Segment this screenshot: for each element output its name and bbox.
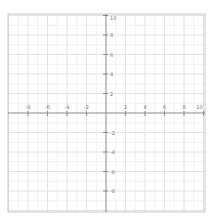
y-tick-label: -4 (110, 149, 115, 155)
x-tick-label: -6 (45, 104, 50, 110)
y-tick-label: -6 (110, 169, 115, 175)
x-tick-label: -2 (84, 104, 89, 110)
x-tick-label: 4 (143, 104, 146, 110)
y-tick-label: -2 (110, 130, 115, 136)
x-tick-label: -8 (26, 104, 31, 110)
coordinate-plane: -8-6-4-2246810 108642-2-4-6-8 (0, 0, 216, 224)
x-tick-label: 6 (163, 104, 166, 110)
y-tick-label: 4 (110, 71, 113, 77)
x-tick-label: 8 (182, 104, 185, 110)
coordinate-grid-svg: -8-6-4-2246810 108642-2-4-6-8 (0, 0, 216, 224)
x-tick-label: 2 (124, 104, 127, 110)
y-tick-label: 8 (110, 32, 113, 38)
y-tick-label: 6 (110, 52, 113, 58)
y-tick-label: -8 (110, 188, 115, 194)
x-tick-labels: -8-6-4-2246810 (26, 104, 203, 110)
y-tick-label: 10 (110, 15, 116, 21)
y-tick-label: 2 (110, 91, 113, 97)
x-tick-label: 10 (196, 104, 202, 110)
x-tick-label: -4 (65, 104, 70, 110)
